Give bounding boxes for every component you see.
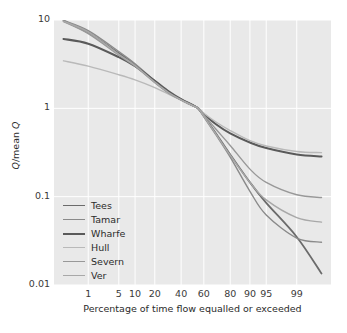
y-tick-0p01: 0.01 [0, 279, 50, 289]
legend-swatch-severn [63, 261, 85, 262]
legend-label-wharfe: Wharfe [91, 227, 125, 240]
x-tick-60: 60 [198, 288, 210, 299]
legend-swatch-tamar [63, 219, 85, 220]
legend-item-wharfe[interactable]: Wharfe [63, 227, 125, 240]
legend-label-severn: Severn [91, 255, 124, 268]
legend-label-hull: Hull [91, 241, 109, 254]
y-axis-label-mean: /mean [10, 129, 21, 162]
legend-label-tees: Tees [91, 199, 112, 212]
legend-swatch-ver [63, 275, 85, 276]
legend: TeesTamarWharfeHullSevernVer [63, 199, 125, 282]
legend-label-ver: Ver [91, 269, 107, 282]
series-line-ver [64, 21, 322, 222]
x-axis-label: Percentage of time flow equalled or exce… [54, 303, 331, 314]
legend-item-tees[interactable]: Tees [63, 199, 125, 212]
x-tick-95: 95 [260, 288, 272, 299]
legend-item-ver[interactable]: Ver [63, 269, 125, 282]
legend-swatch-tees [63, 205, 85, 206]
y-axis-label: Q/mean Q [10, 101, 21, 191]
x-tick-40: 40 [175, 288, 187, 299]
series-line-hull [64, 61, 322, 153]
y-axis-label-q1: Q [10, 162, 21, 169]
legend-label-tamar: Tamar [91, 213, 120, 226]
legend-item-hull[interactable]: Hull [63, 241, 125, 254]
x-tick-20: 20 [149, 288, 161, 299]
series-line-severn [64, 22, 322, 198]
legend-item-tamar[interactable]: Tamar [63, 213, 125, 226]
y-tick-0p1: 0.1 [0, 191, 50, 201]
x-tick-99: 99 [291, 288, 303, 299]
y-axis-label-q2: Q [10, 121, 21, 128]
y-tick-10: 10 [0, 14, 50, 24]
x-tick-80: 80 [224, 288, 236, 299]
series-line-wharfe [64, 39, 322, 157]
legend-swatch-wharfe [63, 233, 85, 235]
legend-item-severn[interactable]: Severn [63, 255, 125, 268]
y-tick-1: 1 [0, 102, 50, 112]
flow-duration-curve-figure: 1010.10.01 Q/mean Q 151020406080909599 P… [0, 0, 347, 333]
x-tick-1: 1 [85, 288, 91, 299]
x-tick-90: 90 [244, 288, 256, 299]
x-tick-5: 5 [116, 288, 122, 299]
x-tick-10: 10 [129, 288, 141, 299]
legend-swatch-hull [63, 247, 85, 248]
